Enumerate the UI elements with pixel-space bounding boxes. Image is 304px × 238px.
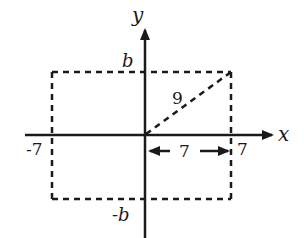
diagonal-line — [146, 72, 231, 134]
half-width-label-7: 7 — [179, 141, 190, 161]
top-label-b: b — [122, 50, 134, 71]
left-label-neg-7: -7 — [26, 139, 43, 159]
bottom-label-neg-b: -b — [112, 204, 130, 225]
diagonal-label-9: 9 — [172, 88, 183, 108]
x-axis-label: x — [278, 122, 289, 146]
right-label-7: 7 — [237, 139, 248, 159]
y-axis-label: y — [131, 3, 144, 27]
coordinate-diagram: y x b -b -7 7 9 7 — [0, 0, 304, 238]
